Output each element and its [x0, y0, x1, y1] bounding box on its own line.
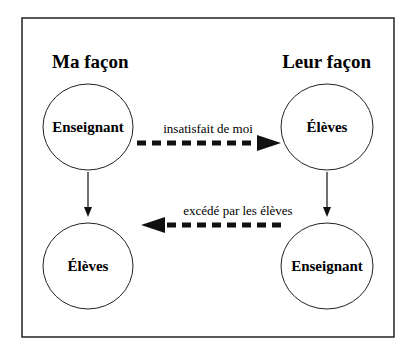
diagram-canvas: Ma façon Leur façon Enseignant Élèves Él…	[0, 0, 414, 352]
node-left-top-label: Enseignant	[52, 119, 124, 135]
left-column-title: Ma façon	[52, 51, 129, 72]
top-arrow-label: insatisfait de moi	[163, 121, 253, 136]
arrow-right-down	[323, 172, 331, 217]
arrow-left-down	[84, 172, 92, 217]
dashed-arrow-left	[141, 217, 281, 233]
bottom-arrow-label: excédé par les élèves	[183, 203, 292, 218]
dashed-arrow-right	[137, 135, 281, 151]
right-column-title: Leur façon	[282, 51, 371, 72]
node-left-bottom-label: Élèves	[68, 258, 109, 274]
node-right-bottom-label: Enseignant	[291, 258, 363, 274]
node-right-top-label: Élèves	[307, 119, 348, 135]
